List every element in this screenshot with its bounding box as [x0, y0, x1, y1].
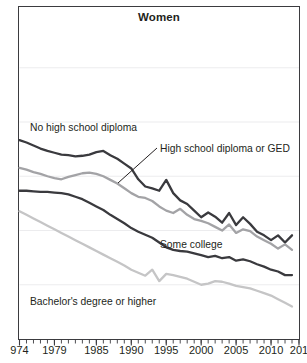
series-label-1: High school diploma or GED	[160, 143, 290, 154]
x-axis-label-2005: 2005	[224, 344, 248, 356]
series-line-0	[20, 140, 293, 242]
x-axis-label-2000: 2000	[189, 344, 213, 356]
x-axis-label-201: 201	[290, 344, 307, 356]
chart-root: Women 9741979198519901995200020052010201…	[0, 0, 307, 363]
x-axis-label-1990: 1990	[119, 344, 143, 356]
x-axis-label-1995: 1995	[154, 344, 178, 356]
x-axis-label-2010: 2010	[259, 344, 283, 356]
series-label-2: Some college	[160, 239, 222, 250]
x-axis-label-1979: 1979	[42, 344, 66, 356]
series-label-0: No high school diploma	[30, 122, 137, 133]
x-axis-label-974: 974	[10, 344, 28, 356]
x-axis-label-1985: 1985	[84, 344, 108, 356]
chart-series-lines	[0, 0, 307, 363]
series-label-3: Bachelor's degree or higher	[30, 296, 156, 307]
series-line-1	[20, 168, 293, 250]
x-axis-tick-labels: 9741979198519901995200020052010201	[0, 344, 307, 363]
